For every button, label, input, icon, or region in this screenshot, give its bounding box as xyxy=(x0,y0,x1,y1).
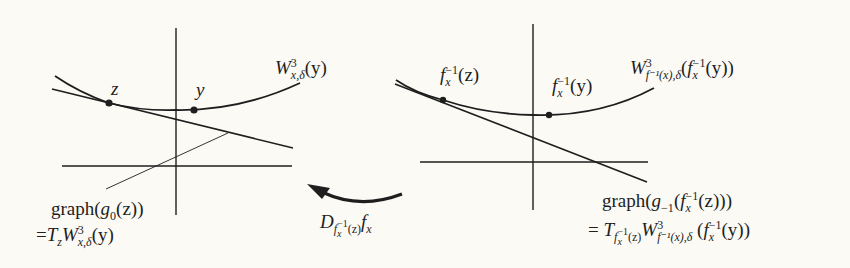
g-fn: g xyxy=(652,190,662,211)
left-tangent-space-label: =TzW3x,δ(y) xyxy=(36,225,114,249)
graph-prefix: graph( xyxy=(51,198,101,219)
f-sub: x xyxy=(366,222,371,236)
derivative-label: Df−1x(z)fx xyxy=(320,212,372,240)
label-arg: (y) xyxy=(305,57,327,78)
left-curve-label: W3x,δ(y) xyxy=(275,58,327,82)
right-panel xyxy=(395,24,654,210)
right-tangent-space-label: = Tf−1x(z)W3f⁻¹(x),δ (f−1x(y)) xyxy=(588,220,750,248)
T-sub-sub: x xyxy=(617,237,628,247)
point-finv-z-label: f−1x(z) xyxy=(440,65,479,89)
point-z-label: z xyxy=(111,79,118,98)
g-arg: (z)) xyxy=(116,198,143,219)
right-curve-label: W3f⁻¹(x),δ(f−1x(y)) xyxy=(630,58,734,82)
arg-close: (y)) xyxy=(722,219,750,240)
W-symbol: W xyxy=(62,224,78,245)
arrow-shaft xyxy=(322,192,402,202)
arg-close: (y)) xyxy=(705,57,733,78)
right-tangent-line xyxy=(395,84,647,182)
eq-sign: = xyxy=(588,219,603,240)
left-panel xyxy=(52,28,300,215)
T-symbol: T xyxy=(47,224,58,245)
W-sub: x,δ xyxy=(78,236,92,248)
arrow-head-icon xyxy=(307,184,330,199)
label-W: W xyxy=(630,57,646,78)
f-sub: x xyxy=(685,202,698,214)
label-W: W xyxy=(275,57,291,78)
T-symbol: T xyxy=(603,219,614,240)
arg-open: ( xyxy=(692,219,703,240)
f-sub: x xyxy=(693,69,706,81)
label-sub: x,δ xyxy=(291,69,305,81)
g-fn: g xyxy=(101,198,111,219)
point-finv-z xyxy=(440,97,446,103)
left-stable-manifold-curve xyxy=(55,76,300,110)
sub-f-sub: x xyxy=(337,229,348,239)
f-sub: x xyxy=(709,231,722,243)
left-graph-label: graph(g0(z)) xyxy=(51,199,144,218)
graph-prefix: graph( xyxy=(602,190,652,211)
arg: (y) xyxy=(570,75,592,96)
point-finv-y xyxy=(546,112,552,118)
T-sub-arg: (z) xyxy=(628,230,641,244)
point-y xyxy=(190,106,197,113)
left-graph-g0-line xyxy=(106,133,228,189)
D-symbol: D xyxy=(320,211,334,232)
f-sub: x xyxy=(557,87,570,99)
point-z xyxy=(105,99,112,106)
point-y-label: y xyxy=(196,80,204,99)
right-stable-manifold-curve xyxy=(396,80,654,115)
diagram-canvas: W3x,δ(y) z y graph(g0(z)) =TzW3x,δ(y) W3… xyxy=(0,0,850,268)
arg: (z) xyxy=(458,64,479,85)
point-finv-y-label: f−1x(y) xyxy=(552,76,592,100)
f-sub: x xyxy=(445,76,458,88)
left-tangent-line xyxy=(52,89,293,148)
W-sub: f⁻¹(x),δ xyxy=(657,231,692,243)
W-symbol: W xyxy=(641,219,657,240)
sub-arg: (z) xyxy=(348,222,361,236)
eq-sign: = xyxy=(36,224,47,245)
g-sub: −1 xyxy=(661,201,674,215)
arg: (z))) xyxy=(698,190,732,211)
derivative-arrow xyxy=(307,184,402,202)
label-sub: f⁻¹(x),δ xyxy=(646,69,681,81)
W-arg: (y) xyxy=(92,224,114,245)
right-graph-label: graph(g−1(f−1x(z))) xyxy=(602,191,732,215)
